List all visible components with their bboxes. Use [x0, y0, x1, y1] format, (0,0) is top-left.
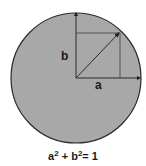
label-a: a	[95, 78, 102, 92]
eq-equals: = 1	[82, 150, 98, 162]
unit-circle-diagram: b a	[0, 0, 146, 166]
label-b: b	[61, 49, 68, 63]
eq-plus: +	[59, 150, 72, 162]
eq-base-b: b	[71, 150, 78, 162]
equation: a2 + b2= 1	[0, 150, 146, 162]
